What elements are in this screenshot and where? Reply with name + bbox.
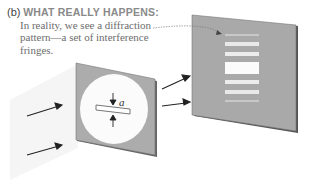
- viewing-screen: [192, 15, 298, 133]
- transmitted-arrows: [162, 75, 190, 106]
- slit-width-label: a: [119, 96, 125, 108]
- diffraction-diagram: a: [0, 0, 312, 190]
- incident-beam: [10, 64, 78, 180]
- interference-fringes: [225, 34, 259, 102]
- slit-screen: a: [76, 63, 157, 157]
